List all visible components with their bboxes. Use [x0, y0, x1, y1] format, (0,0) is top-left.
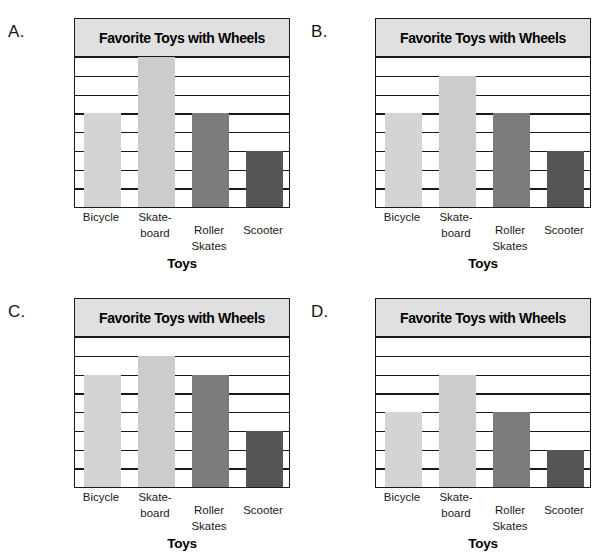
bar-skate-board	[138, 356, 175, 487]
bar-skate-board	[138, 57, 175, 207]
chart-panel-a: A.Number of studentsFavorite Toys with W…	[0, 0, 303, 280]
x-axis-label-line: Skates	[176, 519, 242, 535]
x-axis-label: Scooter	[531, 503, 597, 519]
y-axis-tick	[375, 468, 376, 470]
x-axis-label-line: Skates	[477, 519, 543, 535]
plot-area: 012345678	[74, 56, 290, 208]
gridline	[376, 337, 590, 338]
chart-panel-b: B.Number of studentsFavorite Toys with W…	[303, 0, 607, 280]
plot-area: 012345678	[74, 336, 290, 488]
x-axis-label-line: Scooter	[230, 223, 296, 239]
y-axis-tick	[375, 113, 376, 115]
bar-bicycle	[84, 375, 121, 488]
gridline	[376, 57, 590, 58]
y-axis-tick	[375, 188, 376, 190]
y-axis-tick	[375, 393, 376, 395]
y-axis-tick	[375, 412, 376, 414]
x-axis-title: Toys	[375, 536, 591, 551]
bar-bicycle	[385, 412, 422, 487]
chart-title: Favorite Toys with Wheels	[400, 310, 566, 326]
y-axis-tick	[74, 450, 75, 452]
x-axis-labels: BicycleSkate-boardRollerSkatesScooter	[74, 490, 290, 536]
x-axis-label-line: Scooter	[531, 503, 597, 519]
gridline	[376, 95, 590, 96]
x-axis-labels: BicycleSkate-boardRollerSkatesScooter	[375, 210, 591, 256]
bar-bicycle	[385, 113, 422, 207]
gridline	[75, 337, 289, 338]
bar-roller-skates	[493, 412, 530, 487]
chart-area: Number of studentsFavorite Toys with Whe…	[375, 298, 591, 502]
chart-title-box: Favorite Toys with Wheels	[375, 18, 591, 56]
chart-title-box: Favorite Toys with Wheels	[74, 18, 290, 56]
panel-letter: B.	[311, 22, 328, 42]
panel-letter: D.	[311, 302, 329, 322]
bar-scooter	[547, 450, 584, 488]
gridline	[75, 57, 289, 58]
chart-area: Number of studentsFavorite Toys with Whe…	[74, 18, 290, 222]
chart-area: Number of studentsFavorite Toys with Whe…	[74, 298, 290, 502]
y-axis-tick	[74, 487, 75, 488]
y-axis-tick	[74, 188, 75, 190]
gridline	[376, 393, 590, 394]
gridline	[376, 356, 590, 357]
x-axis-label-line: Skates	[477, 239, 543, 255]
x-axis-label-line: Scooter	[531, 223, 597, 239]
y-axis-tick	[375, 375, 376, 377]
chart-title-box: Favorite Toys with Wheels	[74, 298, 290, 336]
x-axis-label: Scooter	[230, 223, 296, 239]
chart-panel-c: C.Number of studentsFavorite Toys with W…	[0, 280, 303, 559]
y-axis-tick	[74, 207, 75, 208]
y-axis-tick	[74, 95, 75, 97]
y-axis-tick	[74, 393, 75, 395]
y-axis-tick	[74, 431, 75, 433]
x-axis-label-line: Scooter	[230, 503, 296, 519]
bar-scooter	[246, 431, 283, 487]
y-axis-tick	[74, 337, 75, 339]
x-axis-title: Toys	[74, 536, 290, 551]
y-axis-tick	[74, 412, 75, 414]
y-axis-tick	[375, 132, 376, 134]
y-axis-tick	[375, 450, 376, 452]
y-axis-tick	[375, 95, 376, 97]
plot-area: 012345678	[375, 56, 591, 208]
y-axis-tick	[375, 356, 376, 358]
y-axis-tick	[74, 468, 75, 470]
y-axis-tick	[375, 487, 376, 488]
y-axis-tick	[375, 431, 376, 433]
y-axis-tick	[375, 76, 376, 78]
chart-title: Favorite Toys with Wheels	[99, 30, 265, 46]
gridline	[376, 375, 590, 376]
chart-title: Favorite Toys with Wheels	[400, 30, 566, 46]
x-axis-label: Scooter	[230, 503, 296, 519]
chart-title-box: Favorite Toys with Wheels	[375, 298, 591, 336]
figure-panel-grid: A.Number of studentsFavorite Toys with W…	[0, 0, 607, 559]
gridline	[376, 76, 590, 77]
y-axis-tick	[74, 76, 75, 78]
y-axis-tick	[74, 375, 75, 377]
y-axis-tick	[74, 113, 75, 115]
panel-letter: A.	[8, 22, 25, 42]
bar-roller-skates	[192, 375, 229, 488]
x-axis-labels: BicycleSkate-boardRollerSkatesScooter	[375, 490, 591, 536]
y-axis-tick	[375, 337, 376, 339]
gridline	[75, 95, 289, 96]
x-axis-title: Toys	[375, 256, 591, 271]
bar-bicycle	[84, 113, 121, 207]
x-axis-label-line: Skates	[176, 239, 242, 255]
bar-skate-board	[439, 76, 476, 207]
bar-roller-skates	[493, 113, 530, 207]
chart-title: Favorite Toys with Wheels	[99, 310, 265, 326]
y-axis-tick	[74, 57, 75, 59]
x-axis-labels: BicycleSkate-boardRollerSkatesScooter	[74, 210, 290, 256]
y-axis-tick	[375, 151, 376, 153]
y-axis-tick	[74, 356, 75, 358]
bar-roller-skates	[192, 113, 229, 207]
plot-area: 012345678	[375, 336, 591, 488]
gridline	[75, 356, 289, 357]
bar-scooter	[246, 151, 283, 207]
y-axis-tick	[375, 170, 376, 172]
bar-skate-board	[439, 375, 476, 488]
x-axis-label: Scooter	[531, 223, 597, 239]
y-axis-tick	[375, 207, 376, 208]
bar-scooter	[547, 151, 584, 207]
